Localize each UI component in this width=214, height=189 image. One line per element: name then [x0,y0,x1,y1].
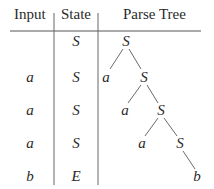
state-cell: S [72,135,80,151]
header-parse-tree: Parse Tree [123,5,186,23]
input-cell: a [26,69,34,85]
edge-n2-n4 [147,85,158,103]
tree-node: b [193,168,201,184]
table-lines [0,0,214,189]
edge-n0-n2 [129,49,141,69]
input-cell: a [26,135,34,151]
state-cell: S [72,33,80,49]
state-cell: S [72,69,80,85]
tree-node: S [140,69,148,85]
tree-node: a [102,69,110,85]
tree-node: S [122,33,130,49]
tree-node: a [138,135,146,151]
tree-node: a [121,102,129,118]
input-cell: b [26,168,34,184]
edge-n6-n7 [183,151,195,169]
edge-n0-n1 [110,49,123,69]
state-cell: E [71,168,80,184]
header-input: Input [14,5,46,23]
tree-node: S [157,102,165,118]
header-state: State [61,5,91,23]
edge-n2-n3 [128,85,141,103]
input-cell: a [26,102,34,118]
edge-n4-n5 [145,118,158,136]
edge-n4-n6 [164,118,177,136]
state-cell: S [72,102,80,118]
tree-node: S [176,135,184,151]
